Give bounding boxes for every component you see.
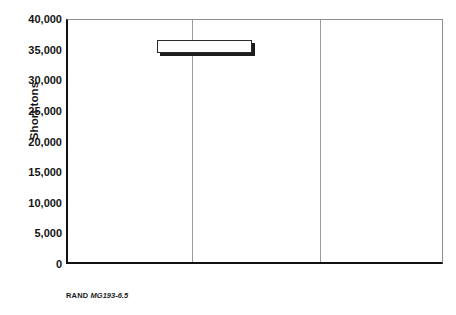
y-axis-tick-label: 30,000 [6, 74, 62, 86]
y-axis-tick-labels: 40,00035,00030,00025,00020,00015,00010,0… [6, 0, 62, 315]
figure-bar-chart: Short tons 40,00035,00030,00025,00020,00… [0, 0, 456, 315]
y-axis-tick-label: 20,000 [6, 136, 62, 148]
plot-area [66, 19, 443, 264]
y-axis-tick-label: 10,000 [6, 197, 62, 209]
y-axis-tick-label: 35,000 [6, 44, 62, 56]
chart-legend [157, 40, 252, 53]
caption-publisher: RAND [66, 291, 88, 300]
figure-caption: RAND MG193-6.5 [66, 291, 128, 300]
group-separator-1 [192, 20, 193, 262]
caption-document-id: MG193-6.5 [91, 291, 129, 300]
y-axis-tick-label: 40,000 [6, 13, 62, 25]
y-axis-tick-label: 25,000 [6, 105, 62, 117]
y-axis-tick-label: 0 [6, 258, 62, 270]
y-axis-tick-label: 5,000 [6, 227, 62, 239]
y-axis-tick-label: 15,000 [6, 166, 62, 178]
group-separator-2 [320, 20, 321, 262]
